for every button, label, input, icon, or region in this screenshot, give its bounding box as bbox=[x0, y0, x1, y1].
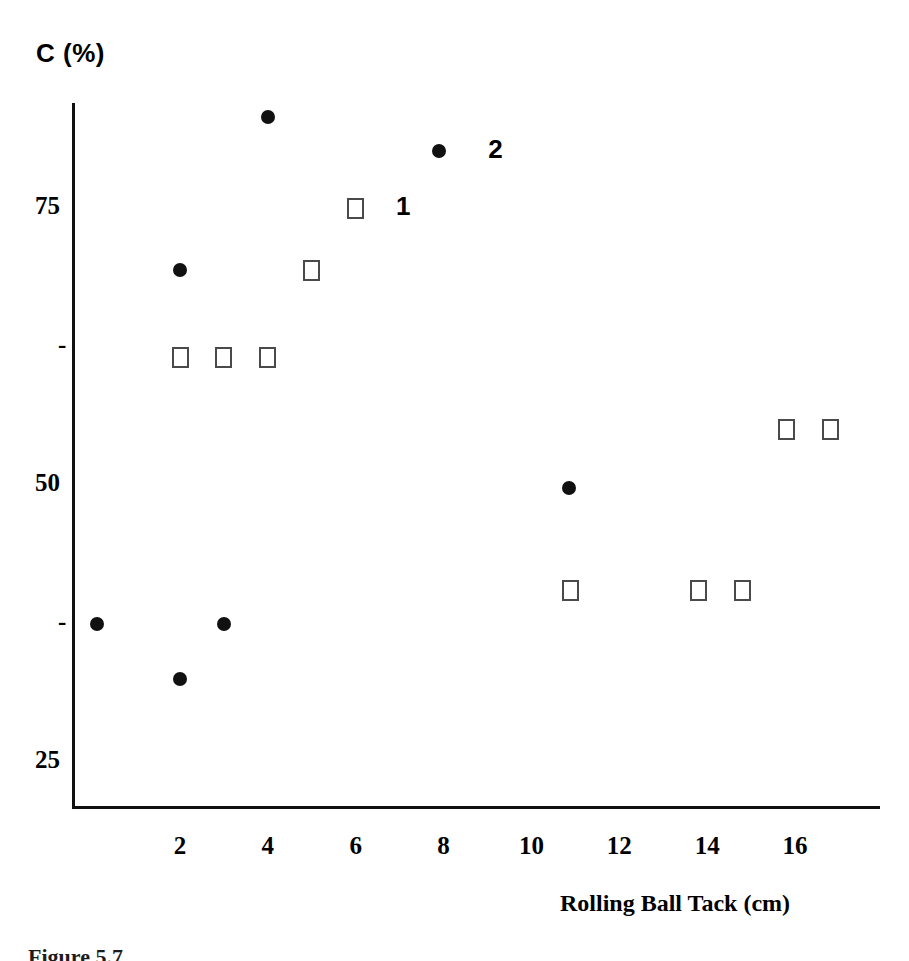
y-axis-title: C (%) bbox=[36, 38, 105, 69]
scatter-plot-figure: C (%) 75-50-25 246810121416 12 Rolling B… bbox=[0, 0, 909, 961]
y-axis-line bbox=[72, 103, 75, 809]
x-axis-tick-label: 6 bbox=[333, 832, 379, 860]
x-axis-tick-label: 12 bbox=[596, 832, 642, 860]
y-axis-tick-label: 25 bbox=[0, 746, 60, 774]
series-label-1: 1 bbox=[396, 191, 410, 222]
data-point-open-square bbox=[215, 347, 232, 368]
data-point-open-square bbox=[822, 419, 839, 440]
x-axis-tick-label: 10 bbox=[508, 832, 554, 860]
x-axis-tick-label: 14 bbox=[684, 832, 730, 860]
y-axis-minor-tick: - bbox=[58, 609, 66, 634]
data-point-filled-circle bbox=[432, 144, 446, 158]
x-axis-tick-label: 16 bbox=[772, 832, 818, 860]
data-point-open-square bbox=[778, 419, 795, 440]
x-axis-tick-label: 4 bbox=[245, 832, 291, 860]
data-point-filled-circle bbox=[261, 110, 275, 124]
data-point-filled-circle bbox=[217, 617, 231, 631]
data-point-filled-circle bbox=[562, 481, 576, 495]
x-axis-line bbox=[72, 806, 880, 809]
data-point-open-square bbox=[347, 198, 364, 219]
data-point-open-square bbox=[259, 347, 276, 368]
x-axis-tick-label: 8 bbox=[421, 832, 467, 860]
data-point-open-square bbox=[562, 580, 579, 601]
figure-caption: Figure 5.7 bbox=[28, 944, 123, 961]
y-axis-tick-label: 50 bbox=[0, 469, 60, 497]
data-point-open-square bbox=[303, 260, 320, 281]
data-point-open-square bbox=[172, 347, 189, 368]
data-point-filled-circle bbox=[90, 617, 104, 631]
data-point-open-square bbox=[690, 580, 707, 601]
data-point-open-square bbox=[734, 580, 751, 601]
y-axis-tick-label: 75 bbox=[0, 192, 60, 220]
y-axis-minor-tick: - bbox=[58, 332, 66, 357]
series-label-2: 2 bbox=[488, 134, 502, 165]
data-point-filled-circle bbox=[173, 263, 187, 277]
x-axis-tick-label: 2 bbox=[157, 832, 203, 860]
x-axis-title: Rolling Ball Tack (cm) bbox=[560, 890, 790, 917]
data-point-filled-circle bbox=[173, 672, 187, 686]
